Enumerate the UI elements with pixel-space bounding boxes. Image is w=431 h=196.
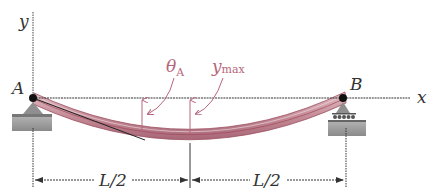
theta-a-label: θA <box>166 56 185 79</box>
dimension-label-right: L/2 <box>252 170 281 190</box>
ymax-leader <box>196 78 223 114</box>
point-B-label: B <box>349 74 363 94</box>
point-A-label: A <box>10 78 24 98</box>
theta-leader <box>148 78 174 114</box>
x-axis-label: x <box>417 87 427 107</box>
pin-B <box>339 94 347 102</box>
beam-diagram: y x θA ymax A B <box>0 0 431 196</box>
ymax-label: ymax <box>211 56 246 76</box>
pin-A <box>29 94 37 102</box>
dimension-label-left: L/2 <box>98 170 127 190</box>
y-axis-label: y <box>18 11 29 31</box>
